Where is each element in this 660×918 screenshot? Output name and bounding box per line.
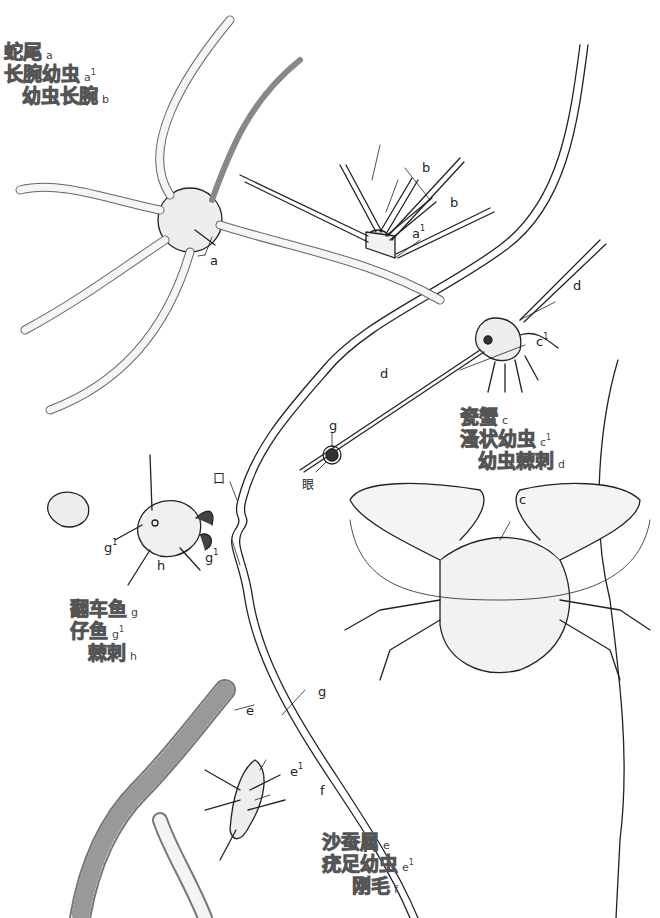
label-g1-left: g1 (104, 538, 117, 555)
legend-row: 溞状幼虫 c1 (460, 427, 565, 449)
legend-name: 刚毛 (352, 877, 390, 896)
label-b-lower: b (450, 195, 458, 210)
nereis-worm (80, 690, 225, 918)
legend-name: 瓷蟹 (460, 408, 498, 427)
label-g1-right: g1 (205, 548, 218, 565)
legend-sunfish: 翻车鱼 g 仔鱼 g1 棘刺 h (70, 597, 138, 663)
legend-tag: a (46, 47, 53, 61)
label-e1: e1 (290, 762, 303, 779)
label-a: a (210, 253, 218, 268)
legend-row: 幼虫棘刺 d (460, 449, 565, 471)
legend-tag: c (502, 412, 508, 426)
legend-tag: a1 (84, 69, 96, 83)
legend-name: 幼虫棘刺 (478, 452, 554, 471)
legend-tag: g (131, 604, 138, 618)
legend-name: 仔鱼 (70, 622, 108, 641)
legend-row: 翻车鱼 g (70, 597, 138, 619)
legend-row: 刚毛 f (322, 874, 414, 896)
label-d-lower: d (380, 366, 388, 381)
nectochaete-larva (205, 760, 285, 860)
label-e: e (246, 703, 254, 718)
legend-row: 长腕幼虫 a1 (4, 62, 109, 84)
label-f: f (320, 783, 325, 798)
legend-row: 瓷蟹 c (460, 405, 565, 427)
porcelain-crab (345, 483, 650, 680)
label-g-eye: g (329, 418, 337, 433)
label-mouth: 口 (213, 469, 225, 486)
legend-name: 长腕幼虫 (4, 65, 80, 84)
legend-tag: b (102, 91, 109, 105)
sunfish-eye (316, 433, 341, 472)
legend-tag: c1 (540, 434, 551, 448)
legend-name: 沙蚕属 (322, 833, 379, 852)
legend-row: 蛇尾 a (4, 40, 109, 62)
legend-row: 仔鱼 g1 (70, 619, 138, 641)
legend-brittle-star: 蛇尾 a 长腕幼虫 a1 幼虫长腕 b (4, 40, 109, 106)
legend-name: 溞状幼虫 (460, 430, 536, 449)
legend-tag: d (558, 456, 565, 470)
legend-row: 幼虫长腕 b (4, 84, 109, 106)
label-c: c (519, 492, 526, 507)
label-eye: 眼 (302, 475, 314, 492)
legend-name: 幼虫长腕 (22, 87, 98, 106)
label-a1: a1 (412, 224, 425, 241)
legend-row: 疣足幼虫 e1 (322, 852, 414, 874)
sunfish-fry (48, 455, 213, 585)
label-g-outline: g (318, 684, 326, 699)
legend-tag: e (383, 837, 390, 851)
legend-name: 蛇尾 (4, 43, 42, 62)
sunfish-outline (232, 45, 625, 918)
legend-tag: h (130, 648, 137, 662)
legend-name: 棘刺 (88, 644, 126, 663)
legend-crab: 瓷蟹 c 溞状幼虫 c1 幼虫棘刺 d (460, 405, 565, 471)
legend-worm: 沙蚕属 e 疣足幼虫 e1 刚毛 f (322, 830, 414, 896)
label-c1: c1 (536, 332, 548, 349)
illustration-plate: 蛇尾 a 长腕幼虫 a1 幼虫长腕 b 瓷蟹 c 溞状幼虫 c1 幼虫棘刺 d … (0, 0, 660, 918)
legend-tag: f (394, 881, 398, 895)
legend-tag: g1 (112, 626, 124, 640)
legend-row: 棘刺 h (70, 641, 138, 663)
legend-tag: e1 (402, 859, 414, 873)
label-b-upper: b (422, 160, 430, 175)
legend-name: 翻车鱼 (70, 600, 127, 619)
label-d-upper: d (573, 278, 581, 293)
legend-name: 疣足幼虫 (322, 855, 398, 874)
legend-row: 沙蚕属 e (322, 830, 414, 852)
label-h: h (157, 558, 165, 573)
